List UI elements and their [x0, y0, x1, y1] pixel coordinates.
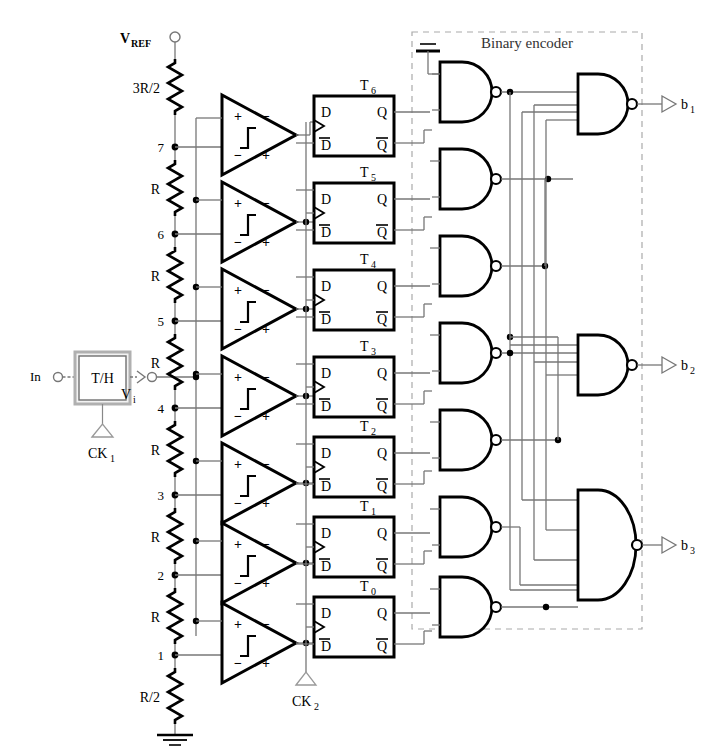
comparator-1-plus-bot: +	[262, 656, 270, 671]
route-dot-2	[543, 604, 549, 610]
ff2-q-label: Q	[377, 446, 387, 461]
thermo-label-0: T	[360, 579, 369, 594]
nand-gate-n1	[432, 62, 578, 122]
ff6-qbar-label: Q	[377, 138, 387, 153]
thermo-sub-6: 6	[371, 85, 376, 96]
vi-label: V	[121, 387, 131, 402]
comparator-1-minus-top: −	[262, 617, 270, 632]
comparator-5-plus-top: +	[234, 283, 242, 298]
nand-n5-bubble-icon	[491, 435, 501, 445]
ladder-tap-7: 7	[158, 140, 223, 155]
nand-gate-n4	[430, 323, 578, 383]
ff4-qbar-label: Q	[377, 312, 387, 327]
output-b3-subscript: 3	[690, 545, 695, 556]
comparator-6-minus-top: −	[262, 196, 270, 211]
ff3-q-label: Q	[377, 366, 387, 381]
nand-n1-bubble-icon	[491, 87, 501, 97]
ck1-label: CK	[88, 446, 107, 461]
tap-label-4: 4	[158, 401, 165, 416]
resistor-label-5: R	[151, 530, 161, 545]
vref-label: V	[120, 31, 130, 46]
ff1-qbar-label: Q	[377, 559, 387, 574]
ck2-label: CK	[292, 694, 311, 709]
ck2-subscript: 2	[314, 701, 319, 712]
encoder-routing-bus	[507, 92, 578, 610]
comparator-4-minus-bot: −	[234, 409, 242, 424]
track-hold-label: T/H	[91, 371, 114, 386]
comparator-3: + − − +	[196, 443, 314, 523]
comparator-4-plus-top: +	[234, 370, 242, 385]
th-out-arrow-icon	[137, 371, 145, 383]
ff1-d-label: D	[321, 526, 331, 541]
ladder-tap-5: 5	[158, 314, 223, 329]
ff2-d-label: D	[321, 446, 331, 461]
ck1-clock-input-icon	[92, 424, 113, 437]
ff5-q-label: Q	[377, 192, 387, 207]
tap-label-1: 1	[158, 648, 165, 663]
encoder-ground-symbol	[416, 44, 440, 74]
ladder-tap-4: 4	[158, 401, 223, 416]
tap-label-5: 5	[158, 314, 165, 329]
nand-gate-n6	[430, 497, 578, 585]
output-b1-label: b	[681, 97, 688, 112]
comparator-7-minus-bot: −	[234, 148, 242, 163]
output-b1-subscript: 1	[690, 104, 695, 115]
nand-n2-bubble-icon	[491, 174, 501, 184]
comparator-5-plus-bot: +	[262, 322, 270, 337]
resistor-label-7: R/2	[140, 690, 160, 705]
ladder-tap-2: 2	[158, 568, 223, 583]
comparator-3-plus-top: +	[234, 457, 242, 472]
comparator-bank: + − − + + − − + + − − +	[196, 95, 314, 683]
ff2-qbar-label: Q	[377, 479, 387, 494]
tap-label-6: 6	[158, 227, 165, 242]
vi-terminal-node	[148, 373, 157, 382]
resistor-label-2: R	[151, 269, 161, 284]
resistor-label-4: R	[151, 443, 161, 458]
schematic-canvas: Binary encoder In T/H CK 1 V i V REF	[0, 0, 702, 754]
output-nand-gates: b 1 b 2 b 3	[578, 74, 695, 600]
output-b2-bubble-icon	[627, 360, 637, 370]
comparator-1: + − − +	[196, 603, 314, 683]
nand-gate-n2	[430, 149, 573, 209]
comparator-6-minus-bot: −	[234, 235, 242, 250]
ff0-q-label: Q	[377, 606, 387, 621]
ff6-d-label: D	[321, 105, 331, 120]
ck1-subscript: 1	[110, 453, 115, 464]
output-nand-b3: b 3	[578, 490, 695, 600]
comparator-7-plus-bot: +	[262, 148, 270, 163]
thermo-sub-1: 1	[371, 506, 376, 517]
comparator-3-minus-top: −	[262, 457, 270, 472]
tap-label-7: 7	[158, 140, 165, 155]
ff6-q-label: Q	[377, 105, 387, 120]
ff4-q-label: Q	[377, 279, 387, 294]
thermo-label-5: T	[360, 165, 369, 180]
nand-n7-bubble-icon	[491, 602, 501, 612]
ff0-d-label: D	[321, 606, 331, 621]
ff0-dbar-label: D	[321, 639, 331, 654]
comparator-6-plus-bot: +	[262, 235, 270, 250]
vref-terminal-node	[170, 32, 180, 42]
binary-encoder-title: Binary encoder	[481, 35, 573, 51]
thermo-sub-4: 4	[371, 259, 376, 270]
ladder-tap-3: 3	[158, 488, 223, 503]
comparator-4-plus-bot: +	[262, 409, 270, 424]
ff1-q-label: Q	[377, 526, 387, 541]
ladder-tap-1: 1	[158, 648, 223, 663]
resistor-ladder: V REF 3R/2 R R R R R R	[120, 31, 222, 745]
ff2-dbar-label: D	[321, 479, 331, 494]
thermo-label-6: T	[360, 78, 369, 93]
flash-adc-schematic: Binary encoder In T/H CK 1 V i V REF	[0, 0, 702, 754]
ff3-d-label: D	[321, 366, 331, 381]
ff5-dbar-label: D	[321, 225, 331, 240]
thermo-label-4: T	[360, 252, 369, 267]
output-b2-label: b	[681, 358, 688, 373]
ff1-dbar-label: D	[321, 559, 331, 574]
output-b2-subscript: 2	[690, 365, 695, 376]
thermo-sub-0: 0	[371, 586, 376, 597]
resistor-label-1: R	[151, 182, 161, 197]
ff6-dbar-label: D	[321, 138, 331, 153]
ck2-clock-input-icon	[296, 672, 316, 685]
nand-n6-bubble-icon	[491, 522, 501, 532]
comparator-7-minus-top: −	[262, 109, 270, 124]
ff0-qbar-label: Q	[377, 639, 387, 654]
